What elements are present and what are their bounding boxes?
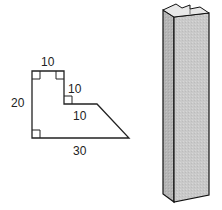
right-angle-marker-bottom-left	[32, 130, 40, 138]
diagram-canvas: 10 10 10 20 30	[0, 0, 222, 210]
prism-side-face	[163, 10, 174, 202]
right-angle-marker-step	[64, 96, 72, 104]
label-step-vertical: 10	[68, 82, 82, 96]
label-step-horizontal: 10	[73, 109, 87, 123]
prism-front-face	[174, 13, 209, 202]
label-bottom: 30	[73, 144, 87, 158]
right-angle-marker-top-left	[32, 71, 40, 79]
prism-3d	[163, 4, 209, 202]
right-angle-marker-top-right	[56, 71, 64, 79]
label-top: 10	[41, 55, 55, 69]
label-left: 20	[11, 96, 25, 110]
